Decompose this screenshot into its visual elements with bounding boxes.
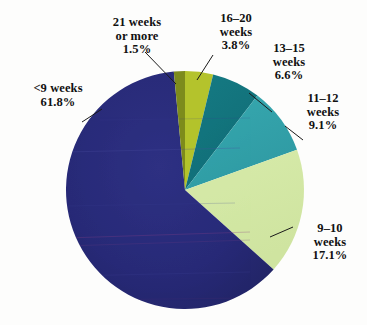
pie-label-1112-line1: 11–12 bbox=[292, 92, 354, 106]
pie-label-1620-line2: weeks bbox=[205, 26, 267, 40]
pie-label-21-value: 1.5% bbox=[96, 43, 178, 57]
pie-label-21-line1: 21 weeks bbox=[96, 16, 178, 30]
pie-label-lt9-value: 61.8% bbox=[12, 96, 104, 110]
pie-label-9-10-weeks: 9–10 weeks 17.1% bbox=[300, 222, 360, 263]
pie-label-1315-line2: weeks bbox=[258, 56, 320, 70]
pie-label-1620-line1: 16–20 bbox=[205, 12, 267, 26]
pie-label-21-weeks-or-more: 21 weeks or more 1.5% bbox=[96, 16, 178, 57]
pie-label-11-12-weeks: 11–12 weeks 9.1% bbox=[292, 92, 354, 133]
pie-label-1315-value: 6.6% bbox=[258, 69, 320, 83]
pie-label-910-line1: 9–10 bbox=[300, 222, 360, 236]
pie-label-1112-value: 9.1% bbox=[292, 119, 354, 133]
pie-chart-figure: 21 weeks or more 1.5% 16–20 weeks 3.8% 1… bbox=[0, 0, 367, 325]
pie-label-910-line2: weeks bbox=[300, 236, 360, 250]
pie-label-13-15-weeks: 13–15 weeks 6.6% bbox=[258, 42, 320, 83]
pie-label-lt9-line1: <9 weeks bbox=[12, 82, 104, 96]
pie-label-1315-line1: 13–15 bbox=[258, 42, 320, 56]
pie-label-21-line2: or more bbox=[96, 30, 178, 44]
pie-label-910-value: 17.1% bbox=[300, 249, 360, 263]
pie-label-less-than-9-weeks: <9 weeks 61.8% bbox=[12, 82, 104, 109]
pie-label-1112-line2: weeks bbox=[292, 106, 354, 120]
